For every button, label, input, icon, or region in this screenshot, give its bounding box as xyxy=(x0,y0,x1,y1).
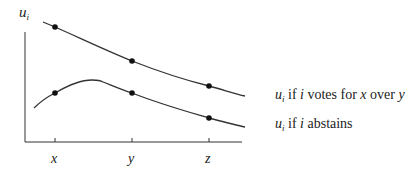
y-axis-label: ui xyxy=(19,4,29,22)
y-axis-label-main: u xyxy=(19,4,27,20)
legend-text: if xyxy=(285,87,301,102)
curve-votes-for-x-over-y xyxy=(43,22,245,96)
point-lower-x xyxy=(52,90,58,96)
point-upper-x xyxy=(52,24,58,30)
point-upper-z xyxy=(206,83,212,89)
point-upper-y xyxy=(129,58,135,64)
legend-u: u xyxy=(275,87,282,102)
legend-text: abstains xyxy=(304,116,353,131)
legend-text: over xyxy=(367,87,399,102)
legend-u: u xyxy=(275,116,282,131)
point-lower-z xyxy=(206,115,212,121)
legend-y: y xyxy=(398,87,404,102)
tick-label-y: y xyxy=(128,151,134,167)
legend-text: votes for xyxy=(304,87,360,102)
y-axis-label-sub: i xyxy=(27,12,30,22)
legend-abstains: ui if i abstains xyxy=(275,116,353,133)
tick-label-x: x xyxy=(51,151,57,167)
legend-text: if xyxy=(285,116,301,131)
legend-votes-for-x-over-y: ui if i votes for x over y xyxy=(275,87,405,104)
chart-canvas xyxy=(0,0,416,171)
point-lower-y xyxy=(129,90,135,96)
tick-label-z: z xyxy=(205,151,210,167)
